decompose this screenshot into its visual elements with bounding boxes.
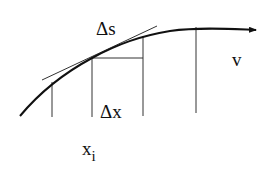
arc-length-diagram: Δs v Δx xi <box>0 0 266 171</box>
delta-x-label: Δx <box>100 101 122 122</box>
xi-subscript: i <box>92 148 96 164</box>
xi-base: x <box>82 138 92 159</box>
curve-name-label: v <box>232 49 242 70</box>
xi-label: xi <box>82 138 96 164</box>
delta-s-label: Δs <box>96 18 116 39</box>
curve-v <box>20 29 256 116</box>
